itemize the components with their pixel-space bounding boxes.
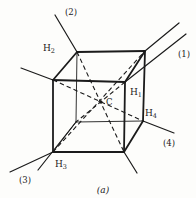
cube-edge: [53, 52, 77, 80]
cube-edge: [77, 51, 145, 52]
axis-line-1: [125, 34, 186, 82]
figure-panel: C H2 H1 H3 H4 (1) (2) (3) (4) (a): [0, 0, 196, 198]
atom-label-h1: H1: [130, 87, 142, 99]
cube-diagram: C H2 H1 H3 H4 (1) (2) (3) (4) (a): [0, 0, 196, 198]
axis-label-3: (3): [19, 175, 31, 185]
atom-label-h2: H2: [43, 43, 55, 55]
body-diagonal: [53, 51, 145, 152]
lines-layer: [10, 15, 186, 173]
axis-line-4: [21, 68, 53, 80]
caption: (a): [97, 185, 110, 195]
cube-edge: [53, 80, 125, 82]
cube-hidden-edge: [76, 52, 77, 122]
cube-edge: [125, 51, 145, 82]
axis-line-2: [124, 152, 137, 173]
axis-line-3: [145, 23, 179, 51]
cube-edge: [124, 82, 125, 152]
center-atom-dot: [99, 100, 102, 103]
cube-edge: [124, 121, 143, 152]
atom-label-h4: H4: [145, 108, 157, 120]
axis-line-3: [10, 152, 53, 172]
axis-label-2: (2): [65, 7, 77, 17]
axis-line-4: [143, 121, 174, 133]
center-atom-label: C: [106, 97, 113, 107]
axis-label-1: (1): [178, 49, 190, 59]
axis-line-2: [55, 15, 77, 52]
axis-label-4: (4): [163, 138, 175, 148]
atom-label-h3: H3: [55, 159, 67, 171]
